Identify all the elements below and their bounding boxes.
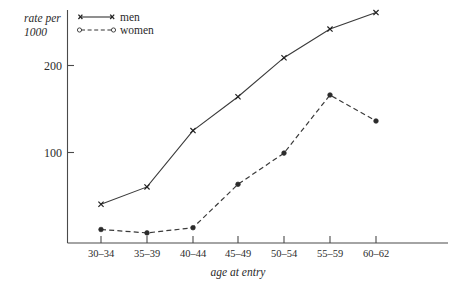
x-tick-label-4: 50–54 xyxy=(271,248,298,259)
data-point-women-5 xyxy=(328,93,333,98)
data-point-men-5 xyxy=(327,27,332,32)
x-axis-ticks xyxy=(101,236,376,243)
x-tick-label-0: 30–34 xyxy=(88,248,115,259)
x-tick-label-2: 40–44 xyxy=(180,248,207,259)
data-point-men-0 xyxy=(98,202,103,207)
legend-marker-circle-icon xyxy=(77,28,81,32)
series-women xyxy=(99,93,379,236)
y-axis-ticks xyxy=(68,66,75,153)
series-layer xyxy=(98,10,378,235)
legend-marker-circle-icon-end xyxy=(111,28,115,32)
data-point-men-2 xyxy=(190,128,195,133)
data-point-men-1 xyxy=(144,184,149,189)
y-axis-label-line2: 1000 xyxy=(24,26,47,38)
data-point-women-1 xyxy=(145,231,150,236)
data-point-women-4 xyxy=(282,151,287,156)
data-point-women-2 xyxy=(191,225,196,230)
x-axis-label: age at entry xyxy=(211,266,267,279)
data-point-men-4 xyxy=(281,55,286,60)
y-tick-label-200: 200 xyxy=(44,59,62,73)
x-tick-label-3: 45–49 xyxy=(225,248,251,259)
data-point-men-6 xyxy=(373,10,378,15)
x-tick-label-1: 35–39 xyxy=(134,248,160,259)
legend-entry-women: women xyxy=(77,24,154,36)
series-line-women xyxy=(101,95,376,233)
legend-label-women: women xyxy=(120,24,154,36)
chart-figure: 200 100 rate per 1000 30–34 35–39 40–44 … xyxy=(0,0,454,287)
chart-legend: men women xyxy=(77,11,154,36)
y-tick-label-100: 100 xyxy=(44,146,62,160)
data-point-women-0 xyxy=(99,227,104,232)
data-point-women-6 xyxy=(374,119,379,124)
x-tick-label-6: 60–62 xyxy=(363,248,389,259)
series-line-men xyxy=(101,13,376,205)
series-men xyxy=(98,10,378,207)
data-point-women-3 xyxy=(236,182,241,187)
x-tick-label-5: 55–59 xyxy=(317,248,343,259)
legend-label-men: men xyxy=(120,11,140,23)
y-axis-label-line1: rate per xyxy=(24,12,61,25)
data-point-men-3 xyxy=(235,94,240,99)
line-chart-canvas: 200 100 rate per 1000 30–34 35–39 40–44 … xyxy=(0,0,454,287)
legend-entry-men: men xyxy=(78,11,140,23)
